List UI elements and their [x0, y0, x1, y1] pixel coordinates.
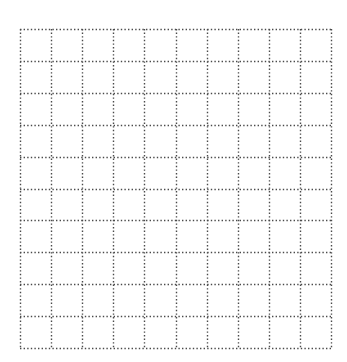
grid-lines	[0, 0, 347, 362]
